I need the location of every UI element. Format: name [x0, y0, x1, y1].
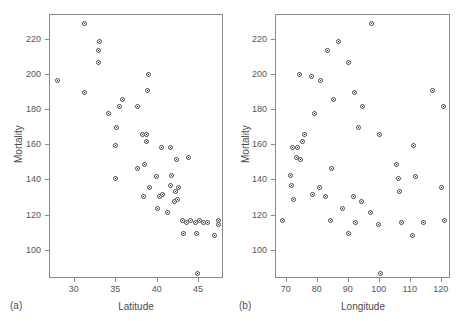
data-point: [144, 139, 149, 144]
data-point: [141, 194, 146, 199]
data-point: [352, 90, 357, 95]
data-point: [96, 48, 101, 53]
data-points-b: [276, 15, 449, 277]
y-tick: [271, 109, 275, 110]
data-point: [194, 231, 199, 236]
data-point: [113, 143, 118, 148]
data-point: [155, 206, 160, 211]
x-tick-label: 100: [371, 285, 386, 294]
y-tick: [45, 144, 49, 145]
x-axis-title-a: Latitude: [118, 302, 154, 312]
data-point: [399, 220, 404, 225]
data-point: [351, 194, 356, 199]
data-point: [113, 176, 118, 181]
x-tick: [157, 278, 158, 282]
data-point: [376, 222, 381, 227]
data-point: [396, 176, 401, 181]
data-point: [82, 21, 87, 26]
panel-a-latitude: 30354045100120140160180200220 Mortality …: [0, 0, 236, 321]
y-tick: [45, 250, 49, 251]
y-tick: [271, 74, 275, 75]
panel-label-b: (b): [239, 301, 251, 311]
data-point: [176, 185, 181, 190]
data-point: [168, 183, 173, 188]
data-point: [298, 157, 303, 162]
y-tick: [271, 144, 275, 145]
data-point: [291, 197, 296, 202]
data-point: [360, 104, 365, 109]
data-point: [288, 173, 293, 178]
data-point: [411, 143, 416, 148]
data-point: [325, 48, 330, 53]
data-point: [290, 145, 295, 150]
data-point: [346, 60, 351, 65]
y-tick-label: 120: [241, 210, 267, 219]
data-point: [135, 104, 140, 109]
y-tick: [45, 215, 49, 216]
y-tick: [271, 215, 275, 216]
y-tick: [45, 179, 49, 180]
data-point: [331, 97, 336, 102]
data-point: [397, 189, 402, 194]
data-point: [195, 271, 200, 276]
data-point: [168, 145, 173, 150]
data-point: [323, 194, 328, 199]
y-tick: [45, 39, 49, 40]
y-tick: [271, 250, 275, 251]
plot-area-b: [275, 14, 450, 278]
data-point: [145, 88, 150, 93]
plot-area-a: [49, 14, 223, 278]
x-tick: [348, 278, 349, 282]
data-point: [165, 210, 170, 215]
figure-scatter-pair: 30354045100120140160180200220 Mortality …: [0, 0, 471, 321]
data-point: [356, 125, 361, 130]
y-tick-label: 140: [15, 175, 41, 184]
x-tick-label: 120: [433, 285, 448, 294]
data-point: [135, 166, 140, 171]
data-point: [154, 174, 159, 179]
y-tick-label: 180: [15, 105, 41, 114]
y-tick-label: 200: [15, 69, 41, 78]
data-point: [212, 233, 217, 238]
data-point: [160, 192, 165, 197]
x-tick: [286, 278, 287, 282]
y-tick-label: 140: [241, 175, 267, 184]
x-tick-label: 35: [110, 285, 120, 294]
data-point: [82, 90, 87, 95]
y-tick: [271, 179, 275, 180]
x-tick: [74, 278, 75, 282]
data-point: [353, 220, 358, 225]
data-point: [146, 72, 151, 77]
data-point: [442, 218, 447, 223]
data-point: [317, 185, 322, 190]
x-tick-label: 80: [312, 285, 322, 294]
data-point: [55, 78, 60, 83]
data-point: [441, 104, 446, 109]
x-tick-label: 110: [403, 285, 417, 294]
data-point: [421, 220, 426, 225]
y-axis-title-a: Mortality: [14, 125, 24, 163]
data-points-a: [50, 15, 222, 277]
data-point: [117, 104, 122, 109]
data-point: [377, 132, 382, 137]
data-point: [295, 145, 300, 150]
data-point: [114, 125, 119, 130]
x-axis-title-b: Longitude: [341, 302, 385, 312]
y-tick: [45, 74, 49, 75]
y-tick-label: 100: [15, 245, 41, 254]
x-tick-label: 40: [152, 285, 162, 294]
panel-b-longitude: 708090100110120100120140160180200220 Mor…: [235, 0, 471, 321]
data-point: [106, 111, 111, 116]
y-tick-label: 180: [241, 105, 267, 114]
data-point: [368, 210, 373, 215]
panel-label-a: (a): [10, 301, 22, 311]
data-point: [144, 132, 149, 137]
x-tick-label: 70: [281, 285, 291, 294]
x-tick: [441, 278, 442, 282]
x-tick-label: 30: [69, 285, 79, 294]
y-tick-label: 120: [15, 210, 41, 219]
data-point: [394, 162, 399, 167]
data-point: [300, 139, 305, 144]
data-point: [175, 197, 180, 202]
x-tick: [198, 278, 199, 282]
